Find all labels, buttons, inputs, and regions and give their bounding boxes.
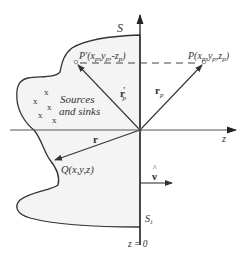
source-marker: x [33,96,38,106]
surface-s-label: S [117,21,123,35]
source-marker: x [52,115,57,125]
source-region [17,35,140,227]
z-axis-label: z [221,133,226,144]
vector-r-label: r [93,133,98,145]
plane-z0-label: z = 0 [127,239,148,249]
diagram-canvas: S P'(xp,yp,-zp) P(xp,yp,zp) r'p rp r Q(x… [0,0,249,264]
region-label-line1: Sources [60,93,94,105]
surface-s1-label: S1 [145,213,153,225]
point-p-label: P(xp,yp,zp) [187,50,230,63]
region-label-line2: and sinks [59,105,100,117]
source-marker: x [47,102,52,112]
vector-rp-label: rp [155,84,164,99]
point-q-label: Q(x,y,z) [61,164,94,176]
normal-vector-hat: ^ [153,164,157,173]
source-marker: x [44,87,49,97]
source-marker: x [38,110,43,120]
vector-rp-arrow [140,65,202,130]
